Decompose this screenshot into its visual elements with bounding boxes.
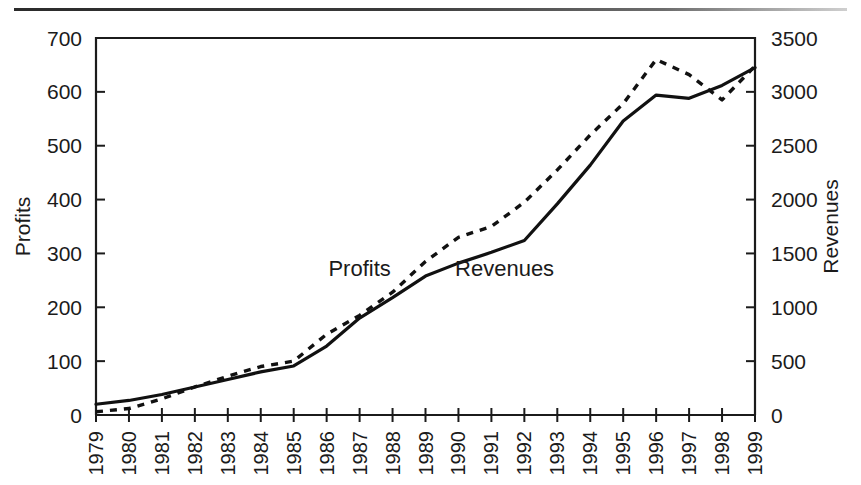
x-tick-label: 1980 bbox=[118, 431, 140, 476]
x-tick-label: 1992 bbox=[513, 431, 535, 476]
right-tick-label: 2000 bbox=[771, 188, 818, 211]
x-axis-ticks bbox=[96, 408, 755, 422]
left-axis-title: Profits bbox=[11, 197, 34, 257]
x-tick-label: 1990 bbox=[447, 431, 469, 476]
x-tick-label: 1988 bbox=[382, 431, 404, 476]
left-tick-label: 400 bbox=[47, 188, 82, 211]
right-axis-ticks bbox=[746, 92, 755, 361]
left-tick-label: 0 bbox=[70, 404, 82, 427]
x-tick-label: 1991 bbox=[480, 431, 502, 476]
chart-canvas: 0100200300400500600700 05001000150020002… bbox=[0, 0, 861, 485]
x-tick-label: 1981 bbox=[151, 431, 173, 476]
right-tick-label: 3500 bbox=[771, 27, 818, 50]
x-tick-label: 1995 bbox=[612, 431, 634, 476]
series-label-revenues: Revenues bbox=[455, 256, 554, 281]
x-tick-label: 1997 bbox=[678, 431, 700, 476]
series-label-profits: Profits bbox=[328, 256, 390, 281]
x-tick-label: 1998 bbox=[711, 431, 733, 476]
x-tick-label: 1982 bbox=[184, 431, 206, 476]
right-tick-label: 1000 bbox=[771, 296, 818, 319]
right-tick-label: 500 bbox=[771, 350, 806, 373]
left-axis-tick-labels: 0100200300400500600700 bbox=[47, 27, 82, 427]
x-tick-label: 1984 bbox=[250, 431, 272, 476]
right-axis-title: Revenues bbox=[819, 179, 842, 274]
x-tick-label: 1994 bbox=[579, 431, 601, 476]
x-tick-label: 1989 bbox=[415, 431, 437, 476]
x-axis-tick-labels: 1979198019811982198319841985198619871988… bbox=[85, 431, 766, 476]
x-tick-label: 1985 bbox=[283, 431, 305, 476]
left-tick-label: 300 bbox=[47, 242, 82, 265]
x-tick-label: 1996 bbox=[645, 431, 667, 476]
series-lines bbox=[96, 60, 755, 412]
dual-axis-line-chart: 0100200300400500600700 05001000150020002… bbox=[0, 0, 861, 485]
series-line-revenues bbox=[96, 68, 755, 405]
x-tick-label: 1986 bbox=[316, 431, 338, 476]
x-tick-label: 1983 bbox=[217, 431, 239, 476]
right-tick-label: 1500 bbox=[771, 242, 818, 265]
left-tick-label: 700 bbox=[47, 27, 82, 50]
right-tick-label: 0 bbox=[771, 404, 783, 427]
right-tick-label: 2500 bbox=[771, 134, 818, 157]
right-tick-label: 3000 bbox=[771, 80, 818, 103]
left-tick-label: 100 bbox=[47, 350, 82, 373]
left-tick-label: 500 bbox=[47, 134, 82, 157]
x-tick-label: 1987 bbox=[349, 431, 371, 476]
left-tick-label: 200 bbox=[47, 296, 82, 319]
x-tick-label: 1979 bbox=[85, 431, 107, 476]
left-tick-label: 600 bbox=[47, 80, 82, 103]
x-tick-label: 1993 bbox=[546, 431, 568, 476]
x-tick-label: 1999 bbox=[744, 431, 766, 476]
series-line-profits bbox=[96, 60, 755, 412]
right-axis-tick-labels: 0500100015002000250030003500 bbox=[771, 27, 818, 427]
left-axis-ticks bbox=[96, 92, 105, 361]
